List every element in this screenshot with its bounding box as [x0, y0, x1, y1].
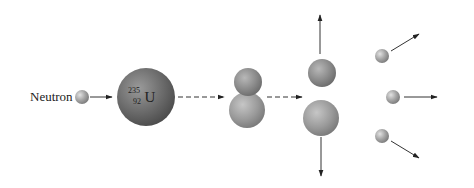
arrow-icon — [391, 34, 419, 51]
uranium-nucleus: 235 92 U — [117, 68, 175, 126]
fragment-large — [303, 100, 339, 136]
fragment-small — [308, 59, 336, 87]
released-neutron — [375, 129, 389, 143]
released-neutron — [375, 49, 389, 63]
fission-fragments — [303, 15, 339, 176]
element-symbol: U — [145, 89, 156, 105]
neutron-label: Neutron — [30, 89, 73, 104]
released-neutrons — [375, 34, 437, 158]
mass-number: 235 — [128, 86, 140, 95]
atomic-number: 92 — [133, 97, 141, 106]
compound-nucleus — [229, 68, 265, 128]
incoming-neutron — [75, 90, 89, 104]
released-neutron — [386, 90, 400, 104]
arrow-icon — [391, 141, 419, 158]
fission-diagram: Neutron 235 92 U — [0, 0, 474, 188]
